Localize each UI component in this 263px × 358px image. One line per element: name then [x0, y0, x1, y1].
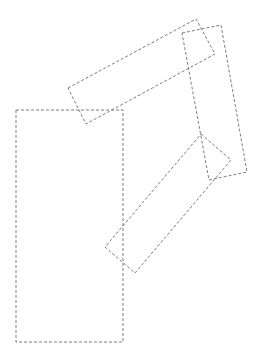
rotated-rect-top: [68, 19, 215, 124]
rotated-rect-middle: [105, 134, 231, 273]
diagram-canvas: [0, 0, 263, 358]
upright-rect-left: [16, 110, 123, 342]
rotated-rect-right: [182, 25, 247, 180]
